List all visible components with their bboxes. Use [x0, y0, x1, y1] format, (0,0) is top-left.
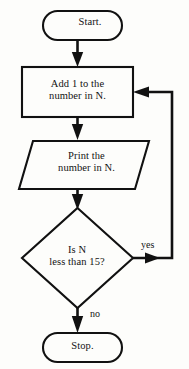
- edge-label-yes: yes: [141, 239, 154, 250]
- process-box-label: Add 1 to the number in N.: [22, 78, 133, 103]
- flowchart-canvas: Start. Add 1 to the number in N. Print t…: [0, 0, 189, 369]
- output-parallelogram-label: Print the number in N.: [24, 150, 149, 175]
- decision-diamond-label: Is N less than 15?: [21, 244, 133, 269]
- stop-terminator-label: Stop.: [43, 340, 122, 352]
- edge-label-no: no: [90, 308, 100, 319]
- edge-decision-no-stop: [72, 308, 83, 333]
- arrow-head: [72, 124, 83, 140]
- arrow-head: [72, 52, 83, 67]
- arrow-head-into-loop: [145, 252, 160, 263]
- edge-start-to-process: [72, 40, 83, 67]
- arrow-head: [133, 86, 149, 97]
- start-terminator-label: Start.: [43, 16, 137, 28]
- edge-process-to-output: [72, 117, 83, 140]
- arrow-head: [72, 316, 83, 333]
